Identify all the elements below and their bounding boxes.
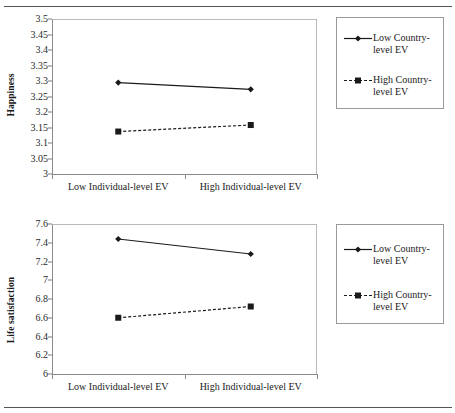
y-axis-tick-mark — [48, 299, 52, 300]
y-axis-tick-label: 7.4 — [36, 238, 49, 248]
y-axis-tick-mark — [48, 158, 52, 159]
y-axis-tick-mark — [48, 336, 52, 337]
x-axis-tick-mark — [185, 174, 186, 179]
x-axis-tick-label: High Individual-level EV — [200, 382, 302, 392]
y-axis-tick-label: 3.3 — [36, 76, 49, 86]
legend-label: High Country-level EV — [373, 74, 445, 97]
series-line-high — [118, 125, 251, 132]
y-axis-tick-mark — [48, 112, 52, 113]
y-axis-tick-label: 3.2 — [36, 107, 49, 117]
y-axis-tick-mark — [48, 224, 52, 225]
top-horizontal-rule — [4, 6, 452, 7]
y-axis-tick-label: 3.15 — [31, 123, 49, 133]
y-axis-tick-mark — [48, 355, 52, 356]
y-axis-tick-label: 3.1 — [36, 138, 49, 148]
series-lines — [52, 224, 317, 374]
legend-key-solid-diamond-icon — [343, 244, 373, 255]
data-point-marker-square — [115, 129, 121, 135]
y-axis-title: Happiness — [0, 40, 22, 150]
data-point-marker-diamond — [115, 236, 121, 242]
legend-label: High Country-level EV — [373, 289, 445, 312]
data-point-marker-diamond — [115, 79, 121, 85]
legend: Low Country-level EVHigh Country-level E… — [336, 17, 444, 109]
y-axis-tick-mark — [48, 127, 52, 128]
y-axis-tick-mark — [48, 280, 52, 281]
y-axis-tick-mark — [48, 143, 52, 144]
y-axis-tick-mark — [48, 50, 52, 51]
y-axis-tick-mark — [48, 242, 52, 243]
life-satisfaction-chart: Life satisfaction 66.26.46.66.877.27.47.… — [0, 210, 455, 400]
x-axis-tick-mark — [52, 174, 53, 179]
data-point-marker-diamond — [248, 86, 254, 92]
y-axis-tick-mark — [48, 65, 52, 66]
y-axis-tick-label: 3.45 — [31, 30, 49, 40]
y-axis-tick-label: 3.35 — [31, 61, 49, 71]
y-axis-tick-mark — [48, 96, 52, 97]
data-point-marker-diamond — [248, 251, 254, 257]
data-point-marker-square — [248, 122, 254, 128]
x-axis-tick-label: High Individual-level EV — [200, 182, 302, 192]
x-axis-tick-label: Low Individual-level EV — [68, 182, 169, 192]
series-line-low — [118, 239, 251, 254]
y-axis-tick-label: 6.8 — [36, 294, 49, 304]
y-axis-tick-label: 6.6 — [36, 313, 49, 323]
x-axis-tick-mark — [52, 374, 53, 379]
y-axis-tick-label: 6.4 — [36, 332, 49, 342]
y-axis-tick-label: 7.6 — [36, 219, 49, 229]
legend: Low Country-level EVHigh Country-level E… — [336, 224, 444, 324]
figure-page: Happiness 33.053.13.153.23.253.33.353.43… — [0, 0, 455, 413]
plot-area — [52, 19, 317, 174]
x-axis-tick-mark — [185, 374, 186, 379]
legend-item[interactable]: Low Country-level EV — [343, 32, 445, 55]
legend-label: Low Country-level EV — [373, 243, 445, 266]
legend-key-dashed-square-icon — [343, 75, 373, 86]
plot-area — [52, 224, 317, 374]
y-axis-tick-mark — [48, 374, 52, 375]
y-axis-tick-mark — [48, 81, 52, 82]
y-axis-title: Life satisfaction — [0, 250, 22, 370]
y-axis-tick-label: 3.05 — [31, 154, 49, 164]
legend-key-dashed-square-icon — [343, 290, 373, 301]
y-axis-tick-mark — [48, 174, 52, 175]
legend-item[interactable]: High Country-level EV — [343, 74, 445, 97]
happiness-chart: Happiness 33.053.13.153.23.253.33.353.43… — [0, 10, 455, 195]
x-axis-tick-label: Low Individual-level EV — [68, 382, 169, 392]
y-axis-tick-label: 7.2 — [36, 257, 49, 267]
y-axis-tick-mark — [48, 317, 52, 318]
y-axis-tick-mark — [48, 19, 52, 20]
series-lines — [52, 19, 317, 174]
bottom-horizontal-rule — [4, 407, 452, 408]
x-axis-tick-mark — [317, 374, 318, 379]
y-axis-tick-label: 3.5 — [36, 14, 49, 24]
legend-label: Low Country-level EV — [373, 32, 445, 55]
y-axis-tick-mark — [48, 261, 52, 262]
legend-item[interactable]: High Country-level EV — [343, 289, 445, 312]
y-axis-tick-mark — [48, 34, 52, 35]
y-axis-tick-label: 3.25 — [31, 92, 49, 102]
series-line-high — [118, 307, 251, 318]
series-line-low — [118, 83, 251, 90]
legend-key-solid-diamond-icon — [343, 33, 373, 44]
y-axis-tick-label: 3.4 — [36, 45, 49, 55]
x-axis-tick-mark — [317, 174, 318, 179]
y-axis-tick-label: 6.2 — [36, 350, 49, 360]
data-point-marker-square — [115, 315, 121, 321]
data-point-marker-square — [248, 304, 254, 310]
legend-item[interactable]: Low Country-level EV — [343, 243, 445, 266]
